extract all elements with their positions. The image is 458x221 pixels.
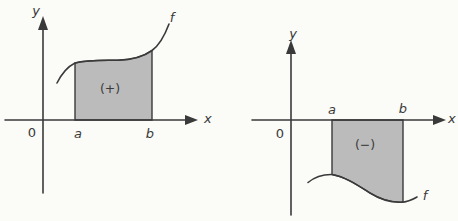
left-x-axis-arrow-icon [185,115,198,125]
left-upper-bound-label: b [146,126,154,141]
left-diagram [5,16,198,193]
right-origin-label: 0 [276,126,284,141]
right-x-axis-label: x [447,111,456,126]
right-x-axis-arrow-icon [433,115,446,125]
left-function-label: f [170,10,177,25]
positive-sign-label: (+) [100,81,120,96]
left-y-axis-arrow-icon [38,16,48,30]
negative-region-shade [332,120,403,202]
signed-area-diagram: y x 0 a b f (+) y x 0 a b f [0,0,458,221]
left-lower-bound-label: a [74,126,82,141]
right-lower-bound-label: a [328,102,336,117]
right-y-axis-label: y [288,26,297,41]
left-origin-label: 0 [28,125,36,140]
left-x-axis-label: x [203,111,212,126]
right-y-axis-arrow-icon [286,40,296,54]
left-y-axis-label: y [31,3,40,18]
right-function-label: f [423,188,430,203]
right-upper-bound-label: b [399,101,407,116]
figure-canvas: y x 0 a b f (+) y x 0 a b f [0,0,458,221]
negative-sign-label: (−) [355,137,375,152]
